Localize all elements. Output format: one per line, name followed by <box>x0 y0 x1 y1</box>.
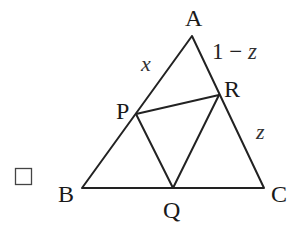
segment-qr <box>173 95 219 188</box>
triangle-diagram: A B C P Q R x 1 − z z <box>0 0 305 232</box>
vertex-label-c: C <box>271 181 287 207</box>
segment-label-rc: z <box>255 119 265 144</box>
vertex-label-a: A <box>185 5 203 31</box>
vertex-label-q: Q <box>163 197 180 223</box>
segment-pq <box>136 114 173 188</box>
vertex-label-r: R <box>224 76 240 102</box>
vertex-label-b: B <box>58 181 74 207</box>
answer-checkbox[interactable] <box>16 169 32 185</box>
segment-label-ap: x <box>140 51 151 76</box>
segment-label-ar: 1 − z <box>212 39 257 64</box>
vertex-label-p: P <box>116 98 129 124</box>
